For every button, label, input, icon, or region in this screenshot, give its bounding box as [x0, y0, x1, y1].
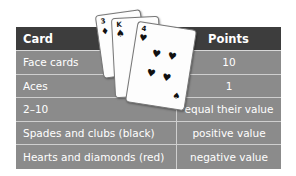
points-cell: positive value — [176, 122, 281, 145]
card-four-hearts: 4 ♥ ♥ ♥ ♥ ♥ ♠ — [125, 21, 197, 111]
heart-icon: ♥ — [138, 32, 148, 43]
heart-icon: ♥ — [146, 68, 156, 79]
points-cell: 1 — [176, 75, 281, 98]
heart-icon: ♥ — [161, 72, 171, 83]
card-cell: Hearts and diamonds (red) — [16, 145, 176, 169]
card-rank: 3 — [100, 18, 106, 26]
spade-icon: ♠ — [116, 29, 125, 39]
heart-icon: ♥ — [151, 48, 161, 59]
points-cell: negative value — [176, 145, 281, 169]
diamond-icon: ♦ — [100, 26, 109, 37]
spade-icon: ♠ — [172, 90, 182, 101]
card-cell: Spades and clubs (black) — [16, 122, 176, 145]
table-row: Spades and clubs (black) positive value — [16, 122, 281, 146]
table-row: Hearts and diamonds (red) negative value — [16, 145, 281, 169]
points-cell: equal their value — [176, 98, 281, 121]
heart-icon: ♥ — [167, 51, 177, 62]
